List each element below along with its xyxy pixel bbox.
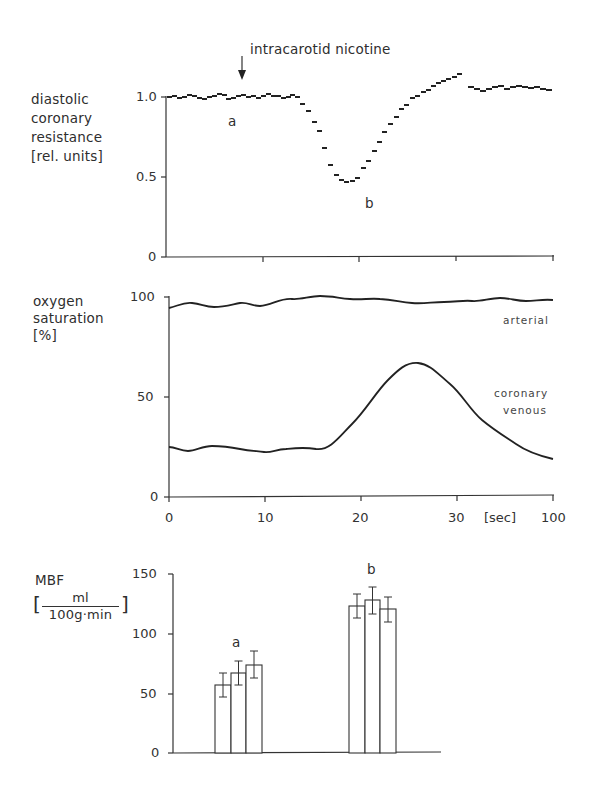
mbf-x-axis [173,752,441,753]
bar-b-endo [380,609,396,753]
bar-b-m [365,600,380,753]
chart-graphics [0,0,598,808]
bar-b-epi [349,606,365,753]
resistance-x-axis [166,256,554,257]
figure: diastolic coronary resistance [rel. unit… [0,0,598,808]
resistance-series [167,74,552,182]
bars-group-b [349,600,396,753]
arterial-series [169,296,553,308]
venous-series [169,363,553,459]
arrow-head-icon [238,70,246,80]
